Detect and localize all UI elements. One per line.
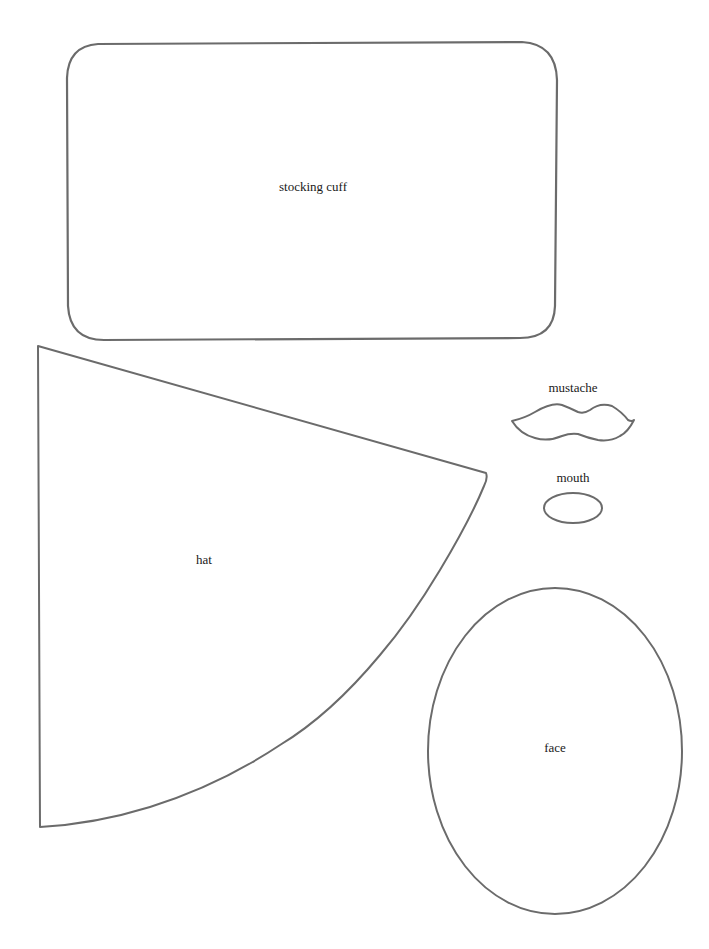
hat-label: hat [196, 552, 212, 568]
mustache-label: mustache [548, 380, 597, 396]
hat-outline [38, 346, 487, 827]
mouth-label: mouth [556, 470, 589, 486]
pattern-shapes [0, 0, 709, 949]
stocking-cuff-label: stocking cuff [279, 179, 347, 195]
face-label: face [544, 740, 566, 756]
pattern-page: stocking cuff hat mustache mouth face [0, 0, 709, 949]
mouth-outline [544, 493, 602, 523]
mustache-outline [512, 404, 634, 440]
